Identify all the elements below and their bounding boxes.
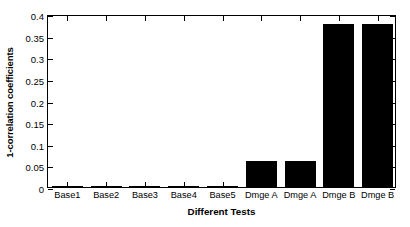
x-tick-mark-top — [378, 16, 379, 21]
y-tick-mark-right — [390, 16, 395, 17]
x-tick-label: Dmge B — [361, 190, 394, 200]
bar — [362, 24, 393, 187]
x-axis-title: Different Tests — [47, 206, 396, 217]
x-tick-label: Base5 — [209, 190, 235, 200]
y-tick-mark — [48, 81, 53, 82]
x-tick-label: Base2 — [93, 190, 119, 200]
x-tick-mark-top — [145, 16, 146, 21]
x-tick-mark-top — [223, 16, 224, 21]
bar — [168, 186, 199, 187]
x-tick-label: Base3 — [132, 190, 158, 200]
bar — [52, 186, 83, 187]
x-tick-label: Base4 — [171, 190, 197, 200]
bar — [207, 186, 238, 187]
x-tick-label: Dmge B — [322, 190, 355, 200]
y-tick-mark — [48, 103, 53, 104]
y-tick-mark — [48, 16, 53, 17]
x-tick-mark-top — [300, 16, 301, 21]
y-tick-mark — [48, 167, 53, 168]
bar — [129, 186, 160, 187]
x-tick-mark-top — [67, 16, 68, 21]
y-tick-mark — [48, 146, 53, 147]
y-tick-label: 0.35 — [26, 32, 45, 43]
plot-area: 00.050.10.150.20.250.30.350.4 Base1Base2… — [47, 15, 396, 188]
y-tick-label: 0.4 — [31, 11, 44, 22]
y-tick-mark — [48, 189, 53, 190]
y-tick-mark — [48, 124, 53, 125]
x-tick-mark-top — [106, 16, 107, 21]
x-tick-label: Dmge A — [245, 190, 278, 200]
x-tick-mark-top — [184, 16, 185, 21]
y-tick-mark — [48, 38, 53, 39]
bar — [285, 161, 316, 187]
x-tick-mark-top — [261, 16, 262, 21]
plot-inner: 00.050.10.150.20.250.30.350.4 Base1Base2… — [48, 16, 395, 187]
y-tick-label: 0.05 — [26, 162, 45, 173]
bar-chart-figure: 1-correlation coefficients 00.050.10.150… — [0, 0, 410, 227]
y-tick-mark — [48, 59, 53, 60]
y-tick-label: 0.3 — [31, 54, 44, 65]
x-tick-mark-top — [339, 16, 340, 21]
y-tick-label: 0.1 — [31, 140, 44, 151]
y-tick-label: 0.25 — [26, 75, 45, 86]
y-tick-label: 0.15 — [26, 119, 45, 130]
bar — [91, 186, 122, 187]
x-tick-label: Dmge A — [284, 190, 317, 200]
y-tick-label: 0.2 — [31, 97, 44, 108]
y-tick-label: 0 — [39, 184, 44, 195]
x-tick-label: Base1 — [54, 190, 80, 200]
y-axis-title: 1-correlation coefficients — [0, 16, 18, 189]
bar — [323, 24, 354, 187]
bar — [246, 161, 277, 187]
